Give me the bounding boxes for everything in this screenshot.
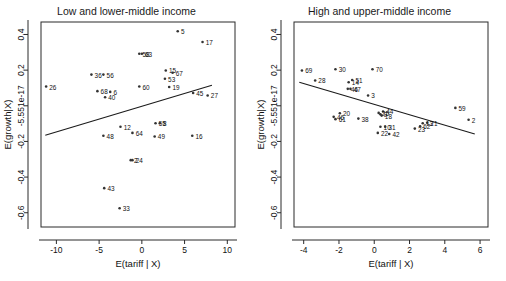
- data-point: [201, 41, 204, 44]
- data-point-label: 51: [355, 77, 363, 84]
- data-point: [314, 79, 317, 82]
- y-tick-label: 0.4: [16, 28, 26, 40]
- data-point: [334, 118, 337, 121]
- y-tick-label: -5.551e-17: [269, 85, 279, 126]
- y-tick-label: 0.4: [269, 28, 279, 40]
- data-point: [334, 68, 337, 71]
- x-tick-label: 10: [223, 245, 233, 255]
- x-tick-label: 0: [139, 245, 144, 255]
- data-point: [377, 112, 380, 115]
- x-tick-label: 6: [478, 245, 483, 255]
- data-point: [118, 207, 121, 210]
- data-point: [454, 107, 457, 110]
- data-point: [119, 126, 122, 129]
- data-point-label: 16: [195, 133, 203, 140]
- data-point-label: 70: [376, 66, 384, 73]
- y-tick-label: -0.4: [16, 169, 26, 184]
- x-axis-title: E(tariff | X): [115, 258, 160, 269]
- x-tick-label: -10: [50, 245, 63, 255]
- data-point-label: 19: [172, 84, 180, 91]
- panel-left-canvas: -10-50510E(tariff | X)0.40.2-5.551e-17-0…: [0, 0, 253, 281]
- data-point-label: 59: [459, 105, 467, 112]
- data-point-label: 33: [123, 205, 131, 212]
- data-point-label: 31: [388, 124, 396, 131]
- x-tick-label: -5: [95, 245, 103, 255]
- data-point: [102, 73, 105, 76]
- data-point: [419, 125, 422, 128]
- data-point: [346, 88, 349, 91]
- panel-right-canvas: -4-20246E(tariff | X)0.40.2-5.551e-17-0.…: [253, 0, 506, 281]
- data-point: [102, 134, 105, 137]
- data-point-label: 3: [371, 92, 375, 99]
- data-point: [376, 132, 379, 135]
- data-point-label: 42: [392, 131, 400, 138]
- data-point-label: 2: [472, 117, 476, 124]
- data-point-label: 27: [211, 92, 219, 99]
- data-point-label: 60: [142, 84, 150, 91]
- x-tick-label: -4: [300, 245, 308, 255]
- data-point: [332, 116, 335, 119]
- data-point-label: 36: [95, 72, 103, 79]
- data-point: [168, 86, 171, 89]
- y-axis-title: E(growth|X): [2, 100, 13, 150]
- data-point: [371, 68, 374, 71]
- data-point: [357, 117, 360, 120]
- y-tick-label: -5.551e-17: [16, 85, 26, 126]
- data-point: [164, 69, 167, 72]
- data-point: [164, 77, 167, 80]
- data-point: [154, 122, 157, 125]
- data-point-label: 2: [134, 157, 138, 164]
- data-point-label: 18: [385, 113, 393, 120]
- data-point-label: 40: [108, 94, 116, 101]
- data-point: [131, 132, 134, 135]
- data-point: [384, 126, 387, 129]
- y-tick-label: -0.6: [269, 205, 279, 220]
- data-point: [421, 122, 424, 125]
- data-point: [45, 85, 48, 88]
- x-tick-label: 2: [407, 245, 412, 255]
- data-point: [171, 72, 174, 75]
- data-point-label: 49: [158, 133, 166, 140]
- data-point: [109, 91, 112, 94]
- data-point: [96, 90, 99, 93]
- y-tick-label: -0.2: [269, 134, 279, 149]
- data-point-label: 61: [339, 116, 347, 123]
- data-point-label: 69: [305, 67, 313, 74]
- data-point-label: 67: [176, 70, 184, 77]
- data-point-label: 12: [124, 124, 132, 131]
- data-point: [129, 159, 132, 162]
- data-point-label: 30: [339, 66, 347, 73]
- data-point-label: 58: [142, 51, 150, 58]
- data-point-label: 28: [318, 77, 326, 84]
- data-point-label: 47: [354, 86, 362, 93]
- data-point: [138, 52, 141, 55]
- data-point-label: 53: [168, 76, 176, 83]
- data-point-label: 38: [362, 116, 370, 123]
- data-point: [158, 122, 161, 125]
- data-point-label: 22: [381, 130, 389, 137]
- y-tick-label: -0.6: [16, 205, 26, 220]
- data-point: [349, 88, 352, 91]
- x-tick-label: 5: [182, 245, 187, 255]
- data-point: [380, 114, 383, 117]
- data-point: [206, 94, 209, 97]
- data-point-label: 13: [426, 120, 434, 127]
- data-point-label: 68: [101, 88, 109, 95]
- data-point: [103, 187, 106, 190]
- data-point: [191, 134, 194, 137]
- data-point-label: 26: [49, 84, 57, 91]
- y-tick-label: 0.2: [269, 64, 279, 76]
- data-point: [192, 92, 195, 95]
- chart-panel-high-income: High and upper-middle income -4-20246E(t…: [253, 0, 506, 281]
- plot-frame: [41, 22, 235, 227]
- data-point-label: 45: [196, 90, 204, 97]
- data-point: [138, 85, 141, 88]
- data-point: [176, 30, 179, 33]
- x-axis-title: E(tariff | X): [368, 258, 413, 269]
- data-point: [467, 118, 470, 121]
- data-point-label: 17: [206, 39, 214, 46]
- x-tick-label: -2: [335, 245, 343, 255]
- figure-root: Low and lower-middle income -10-50510E(t…: [0, 0, 506, 281]
- data-point-label: 48: [107, 133, 115, 140]
- data-point-label: 64: [136, 130, 144, 137]
